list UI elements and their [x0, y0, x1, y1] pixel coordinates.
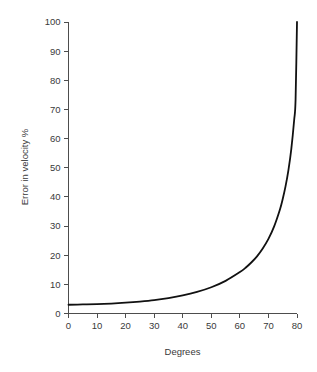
x-tick-label: 50: [206, 320, 217, 331]
x-tick-label: 20: [120, 320, 131, 331]
y-tick-label: 30: [50, 220, 61, 231]
x-axis-title: Degrees: [165, 346, 201, 357]
y-tick-label: 70: [50, 104, 61, 115]
x-tick-label: 0: [66, 320, 71, 331]
x-tick-label: 60: [235, 320, 246, 331]
x-tick-label: 80: [292, 320, 303, 331]
line-chart: 0102030405060708090100 01020304050607080…: [0, 0, 317, 372]
x-tick-label: 10: [92, 320, 103, 331]
y-tick-label: 0: [55, 308, 60, 319]
y-tick-label: 20: [50, 250, 61, 261]
y-tick-label: 90: [50, 46, 61, 57]
x-tick-label: 40: [177, 320, 188, 331]
y-tick-label: 40: [50, 191, 61, 202]
x-axis-tick-labels: 01020304050607080: [66, 320, 302, 331]
chart-background: [0, 0, 317, 372]
y-tick-label: 50: [50, 162, 61, 173]
y-axis-title: Error in velocity %: [19, 128, 30, 205]
chart-figure: 0102030405060708090100 01020304050607080…: [0, 0, 317, 372]
x-tick-label: 30: [149, 320, 160, 331]
x-tick-label: 70: [263, 320, 274, 331]
y-tick-label: 10: [50, 279, 61, 290]
y-tick-label: 80: [50, 75, 61, 86]
y-tick-label: 100: [45, 16, 61, 27]
y-tick-label: 60: [50, 133, 61, 144]
